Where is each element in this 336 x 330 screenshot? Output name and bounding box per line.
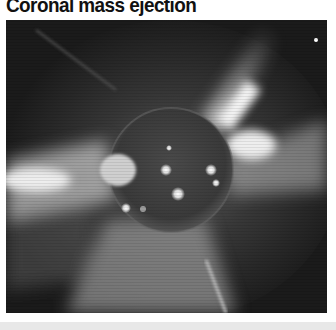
cme-photo (6, 20, 327, 313)
scanline-overlay (6, 20, 327, 313)
bottom-band (0, 322, 336, 330)
figure-title: Coronal mass ejection (6, 0, 196, 17)
